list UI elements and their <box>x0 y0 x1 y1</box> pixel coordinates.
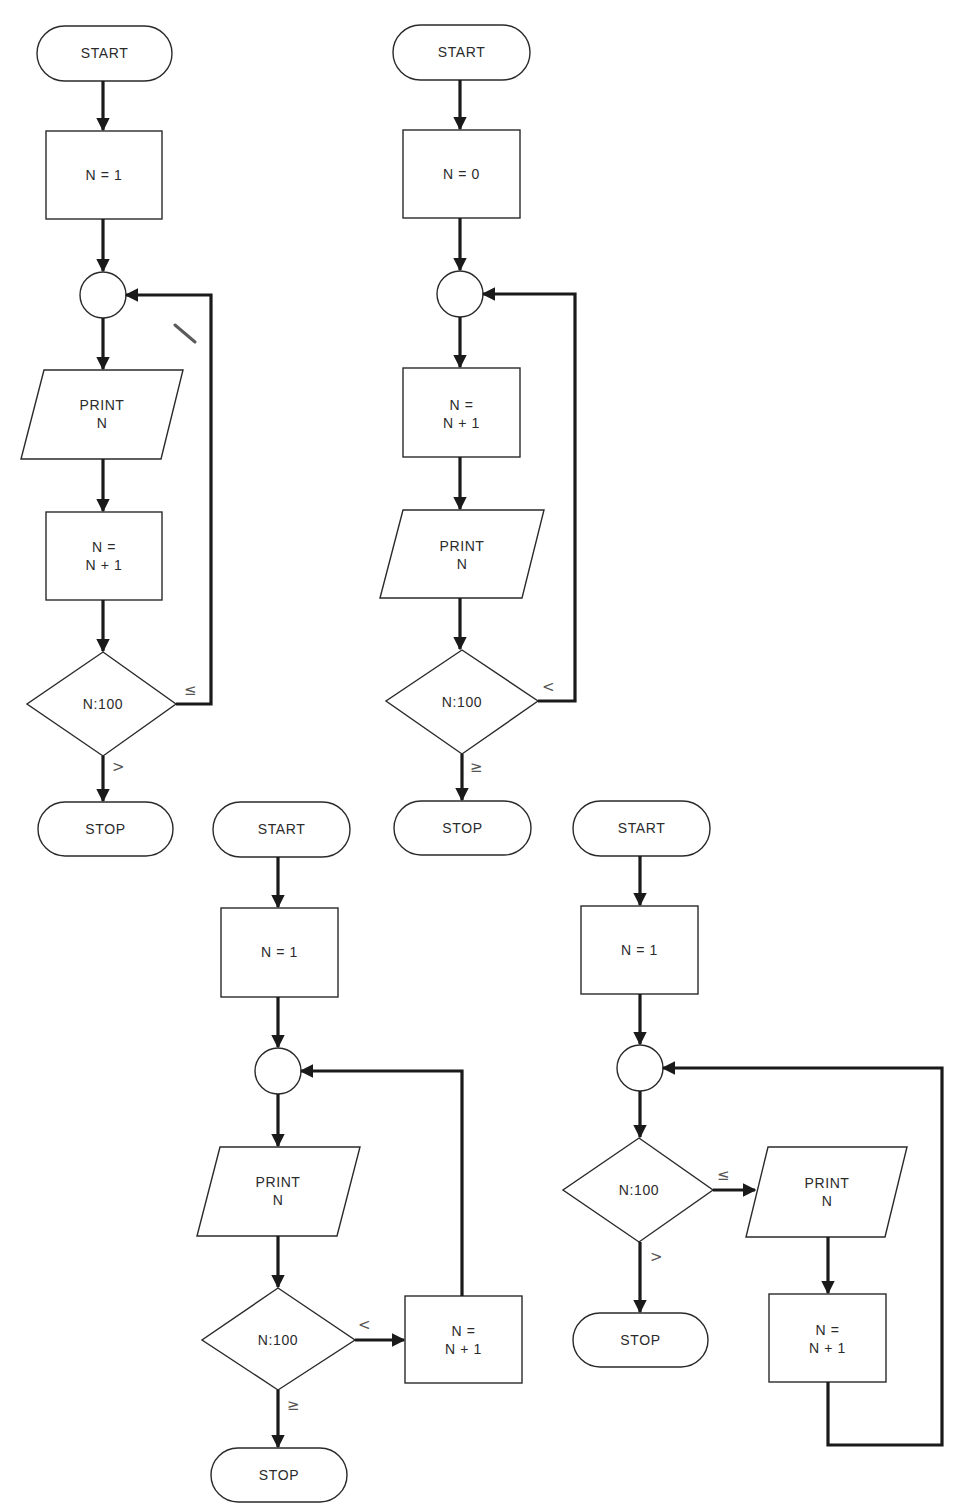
flowchart-3: START N = 1 PRINT N N:100 < N = N + 1 <box>197 802 522 1502</box>
stop-terminal: STOP <box>394 801 531 855</box>
stop-label: STOP <box>620 1332 660 1348</box>
print-label-line2: N <box>97 415 108 431</box>
stop-label: STOP <box>259 1467 299 1483</box>
flowchart-1: START N = 1 PRINT N N = N + 1 N:100 <box>21 26 211 856</box>
print-label-line2: N <box>457 556 468 572</box>
decision-label: N:100 <box>83 696 123 712</box>
stray-pen-mark <box>175 325 195 342</box>
init-label: N = 0 <box>443 166 480 182</box>
increment-process-box: N = N + 1 <box>403 368 520 457</box>
increment-process-box: N = N + 1 <box>46 512 162 600</box>
print-label-line1: PRINT <box>440 538 485 554</box>
loop-condition-label: < <box>358 1316 371 1334</box>
init-process-box: N = 0 <box>403 130 520 218</box>
print-io-parallelogram: PRINT N <box>380 510 544 598</box>
start-terminal: START <box>573 801 710 856</box>
exit-condition-label: ≥ <box>470 758 483 776</box>
decision-label: N:100 <box>619 1182 659 1198</box>
increment-label-line1: N = <box>450 397 474 413</box>
print-io-parallelogram: PRINT N <box>21 370 183 459</box>
loop-condition-label: ≤ <box>184 681 197 699</box>
exit-condition-label: ≥ <box>287 1396 300 1414</box>
exit-condition-label: > <box>650 1248 663 1266</box>
print-label-line2: N <box>273 1192 284 1208</box>
flowchart-2: START N = 0 N = N + 1 PRINT N N:100 < ≥ <box>380 25 575 855</box>
print-io-parallelogram: PRINT N <box>746 1147 907 1237</box>
start-label: START <box>438 44 486 60</box>
start-label: START <box>81 45 129 61</box>
connector-circle <box>80 272 126 318</box>
init-process-box: N = 1 <box>581 906 698 994</box>
start-terminal: START <box>213 802 350 857</box>
increment-label-line2: N + 1 <box>86 557 123 573</box>
decision-diamond: N:100 <box>202 1288 355 1390</box>
increment-label-line1: N = <box>816 1322 840 1338</box>
loop-condition-label: ≤ <box>717 1166 730 1184</box>
start-label: START <box>258 821 306 837</box>
start-terminal: START <box>37 26 172 81</box>
loop-condition-label: < <box>542 678 555 696</box>
start-label: START <box>618 820 666 836</box>
decision-label: N:100 <box>258 1332 298 1348</box>
decision-diamond: N:100 <box>386 650 538 754</box>
increment-label-line2: N + 1 <box>445 1341 482 1357</box>
increment-label-line1: N = <box>452 1323 476 1339</box>
connector-circle <box>437 271 483 317</box>
increment-process-box: N = N + 1 <box>769 1294 886 1382</box>
stop-terminal: STOP <box>211 1448 347 1502</box>
flowchart-canvas: START N = 1 PRINT N N = N + 1 N:100 <box>0 0 958 1503</box>
init-label: N = 1 <box>86 167 123 183</box>
print-label-line2: N <box>822 1193 833 1209</box>
loop-back-arrow <box>663 1068 942 1445</box>
start-terminal: START <box>393 25 530 80</box>
increment-label-line2: N + 1 <box>443 415 480 431</box>
connector-circle <box>255 1048 301 1094</box>
decision-diamond: N:100 <box>27 652 176 756</box>
flowchart-4: START N = 1 N:100 ≤ PRINT N N = N + 1 <box>563 801 942 1445</box>
decision-diamond: N:100 <box>563 1138 713 1242</box>
increment-label-line2: N + 1 <box>809 1340 846 1356</box>
connector-circle <box>617 1045 663 1091</box>
loop-back-arrow <box>126 295 211 704</box>
stop-label: STOP <box>85 821 125 837</box>
stop-terminal: STOP <box>38 802 173 856</box>
stop-terminal: STOP <box>573 1313 708 1367</box>
print-label-line1: PRINT <box>256 1174 301 1190</box>
increment-label-line1: N = <box>92 539 116 555</box>
print-label-line1: PRINT <box>80 397 125 413</box>
init-process-box: N = 1 <box>221 908 338 997</box>
print-io-parallelogram: PRINT N <box>197 1147 360 1236</box>
init-label: N = 1 <box>621 942 658 958</box>
exit-condition-label: > <box>112 758 125 776</box>
loop-back-arrow <box>483 294 575 701</box>
increment-process-box: N = N + 1 <box>405 1296 522 1383</box>
init-process-box: N = 1 <box>46 131 162 219</box>
stop-label: STOP <box>442 820 482 836</box>
decision-label: N:100 <box>442 694 482 710</box>
init-label: N = 1 <box>261 944 298 960</box>
print-label-line1: PRINT <box>805 1175 850 1191</box>
